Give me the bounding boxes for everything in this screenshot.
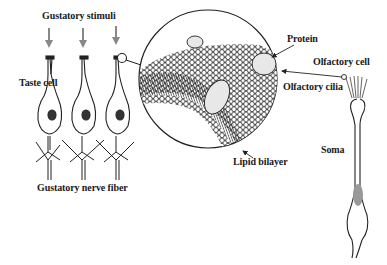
membrane-magnified-view: [139, 10, 290, 150]
label-protein: Protein: [287, 33, 318, 44]
pointer-protein: [272, 45, 294, 57]
stimuli-arrows: [45, 26, 120, 48]
label-gustatory-stimuli: Gustatory stimuli: [42, 10, 116, 21]
label-soma: Soma: [321, 144, 345, 155]
label-olfactory-cilia: Olfactory cilia: [283, 81, 343, 92]
label-lipid-bilayer: Lipid bilayer: [233, 156, 288, 167]
pointer-olfactory: [282, 71, 342, 77]
diagram-canvas: [0, 0, 387, 265]
label-gustatory-nerve-fiber: Gustatory nerve fiber: [37, 182, 128, 193]
taste-cells: [38, 54, 130, 135]
label-taste-cell: Taste cell: [19, 77, 57, 88]
nerve-fibers: [36, 136, 134, 180]
olfactory-cell: [342, 75, 368, 259]
label-olfactory-cell: Olfactory cell: [313, 56, 370, 67]
